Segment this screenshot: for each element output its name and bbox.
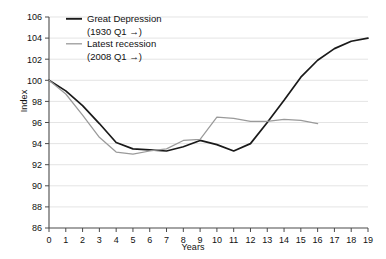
legend-label: Great Depression xyxy=(87,13,161,24)
y-axis-title: Index xyxy=(19,71,29,131)
legend-sublabel: (2008 Q1 →) xyxy=(87,51,142,62)
y-axis-ticks: 86889092949698100102104106 xyxy=(27,12,49,233)
series-line-latest-recession xyxy=(49,80,318,154)
y-tick-label: 104 xyxy=(27,33,42,43)
y-tick-label: 100 xyxy=(27,76,42,86)
y-tick-label: 94 xyxy=(32,139,42,149)
y-tick-label: 102 xyxy=(27,55,42,65)
y-tick-label: 106 xyxy=(27,12,42,22)
y-tick-label: 96 xyxy=(32,118,42,128)
y-tick-label: 98 xyxy=(32,97,42,107)
legend-sublabel: (1930 Q1 →) xyxy=(87,26,142,37)
y-tick-label: 92 xyxy=(32,160,42,170)
legend-label: Latest recession xyxy=(87,38,156,49)
y-tick-label: 88 xyxy=(32,202,42,212)
chart-figure: 86889092949698100102104106 0123456789101… xyxy=(0,0,386,259)
y-tick-label: 90 xyxy=(32,181,42,191)
line-chart-canvas: 86889092949698100102104106 0123456789101… xyxy=(0,0,386,259)
chart-legend: Great Depression(1930 Q1 →)Latest recess… xyxy=(66,13,161,62)
y-tick-label: 86 xyxy=(32,223,42,233)
x-axis-title: Years xyxy=(0,242,386,252)
